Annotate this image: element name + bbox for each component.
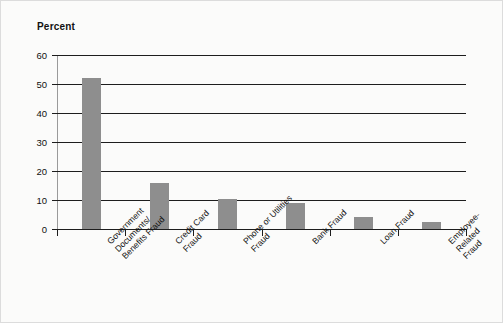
y-tick-mark-50 <box>52 84 57 85</box>
bar <box>354 217 373 229</box>
x-axis-label-line: Benefits Fraud <box>120 254 127 261</box>
y-tick-label-60: 60 <box>21 50 47 61</box>
y-tick-label-20: 20 <box>21 166 47 177</box>
x-axis-label-line: Fraud <box>181 246 188 253</box>
gridline-60 <box>57 55 466 56</box>
bar <box>82 78 101 229</box>
x-axis-label-line: Phone or Utilities <box>241 239 248 246</box>
x-axis-label: Loan Fraud <box>378 239 385 246</box>
y-tick-mark-10 <box>52 200 57 201</box>
gridline-50 <box>57 84 466 85</box>
x-axis-label-line: Documents/ <box>113 246 120 253</box>
y-tick-mark-40 <box>52 113 57 114</box>
x-axis-label-line: Government <box>105 239 112 246</box>
y-tick-label-10: 10 <box>21 195 47 206</box>
y-tick-label-0: 0 <box>21 224 47 235</box>
x-axis-label-line: Related <box>453 246 460 253</box>
plot-area: 0102030405060 GovernmentDocuments/Benefi… <box>1 1 503 323</box>
x-axis-label-line: Bank Fraud <box>310 239 317 246</box>
x-axis-label: Phone or UtilitiesFraud <box>241 239 256 254</box>
x-axis-label-line: Loan Fraud <box>378 239 385 246</box>
y-tick-label-30: 30 <box>21 137 47 148</box>
gridline-20 <box>57 171 466 172</box>
bar <box>286 203 305 229</box>
x-tick-mark <box>57 229 58 236</box>
bar <box>218 199 237 229</box>
x-axis-label: Credit CardFraud <box>173 239 188 254</box>
x-axis-label-line: Employee- <box>446 239 453 246</box>
bar-chart-figure: Percent 0102030405060 GovernmentDocument… <box>0 0 503 323</box>
gridline-40 <box>57 113 466 114</box>
y-tick-label-50: 50 <box>21 79 47 90</box>
y-tick-mark-20 <box>52 171 57 172</box>
gridline-10 <box>57 200 466 201</box>
x-axis-label: Employee-RelatedFraud <box>446 239 468 261</box>
bar <box>422 222 441 229</box>
x-axis-label: GovernmentDocuments/Benefits Fraud <box>105 239 127 261</box>
x-axis-label-line: Credit Card <box>173 239 180 246</box>
y-tick-mark-30 <box>52 142 57 143</box>
x-axis-label-line: Fraud <box>249 246 256 253</box>
y-tick-label-40: 40 <box>21 108 47 119</box>
y-tick-mark-60 <box>52 55 57 56</box>
x-axis-label: Bank Fraud <box>310 239 317 246</box>
gridline-30 <box>57 142 466 143</box>
x-axis-label-line: Fraud <box>461 254 468 261</box>
